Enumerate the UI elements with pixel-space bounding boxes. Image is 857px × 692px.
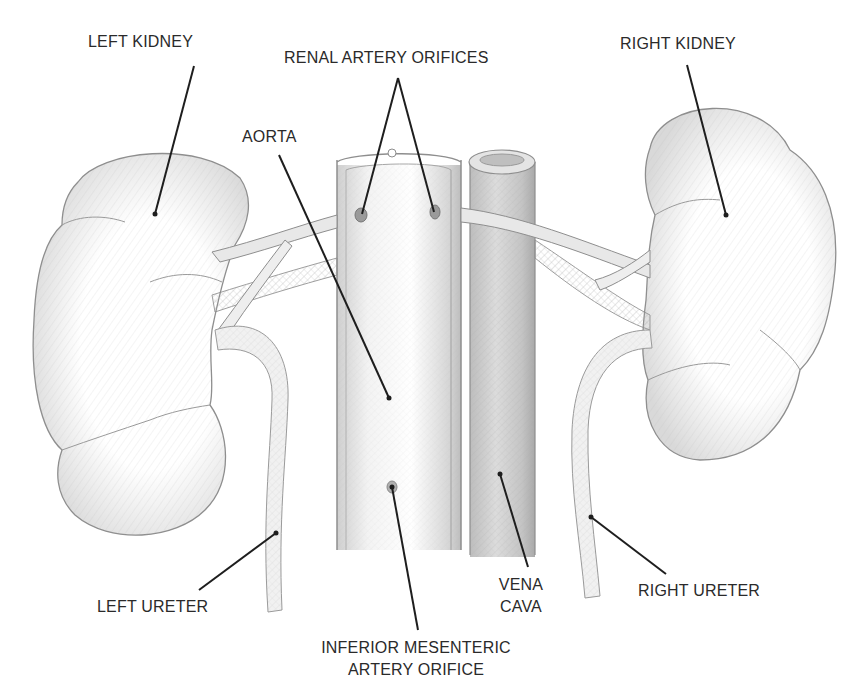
label-ima-line1: INFERIOR MESENTERIC [321,637,511,659]
label-vena-cava-line1: VENA [499,574,543,596]
aorta-shape [337,149,461,550]
label-right-ureter: RIGHT URETER [638,580,760,602]
label-left-ureter: LEFT URETER [97,596,208,618]
leader-right-ureter [591,517,666,574]
left-kidney-shape [33,153,248,535]
label-renal-artery-orifices: RENAL ARTERY ORIFICES [284,47,489,69]
anatomy-diagram: LEFT KIDNEY RENAL ARTERY ORIFICES RIGHT … [0,0,857,692]
right-ureter-shape [572,330,652,598]
label-ima-line2: ARTERY ORIFICE [321,659,511,681]
label-aorta: AORTA [242,126,297,148]
label-inferior-mesenteric-artery-orifice: INFERIOR MESENTERIC ARTERY ORIFICE [321,637,511,681]
label-vena-cava-line2: CAVA [499,596,543,618]
label-vena-cava: VENA CAVA [499,574,543,618]
leader-left-ureter [199,533,276,590]
right-kidney-shape [643,108,836,460]
label-right-kidney: RIGHT KIDNEY [620,33,736,55]
label-left-kidney: LEFT KIDNEY [88,31,193,53]
